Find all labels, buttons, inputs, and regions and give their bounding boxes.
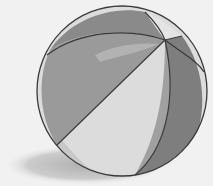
beach-ball-illustration xyxy=(0,0,213,186)
beach-ball-scene xyxy=(0,0,213,186)
